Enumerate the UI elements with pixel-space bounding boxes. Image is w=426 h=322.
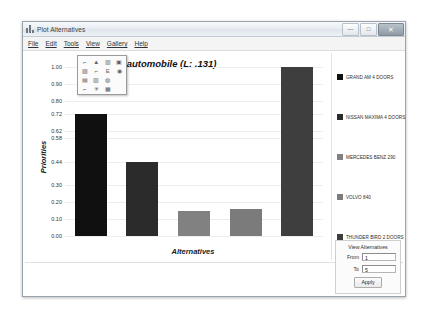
y-tick-label: 0.44 <box>51 159 62 165</box>
chart-bar[interactable] <box>230 209 262 236</box>
menu-item-help[interactable]: Help <box>134 40 147 47</box>
blank-cell-icon[interactable] <box>114 84 126 93</box>
bar-chart-icon[interactable]: ▥ <box>102 57 114 66</box>
gridline <box>65 236 323 237</box>
y-tick-label: 0.72 <box>51 111 62 117</box>
donut-chart-icon[interactable]: ◍ <box>102 75 114 84</box>
legend-swatch <box>337 194 343 200</box>
apply-button[interactable]: Apply <box>354 277 382 288</box>
chart-bar[interactable] <box>178 211 210 236</box>
y-tick-label: 0.30 <box>51 182 62 188</box>
legend-swatch <box>337 114 343 120</box>
gallery-palette-popup[interactable]: ⌐▲▥▣▨⌐Ε◉▤▥◍⌐✳▦ <box>77 55 127 95</box>
scatter-chart-icon[interactable]: ⌐ <box>79 84 91 93</box>
menu-item-file[interactable]: File <box>28 40 38 47</box>
bar-chart-icon <box>26 25 34 33</box>
chart-bar[interactable] <box>126 162 158 236</box>
legend-label: MERCEDES BENZ 290 <box>346 155 395 160</box>
plot-alternatives-window: Plot Alternatives — □ ✕ File Edit Tools … <box>22 21 406 297</box>
range-bar-icon[interactable]: ▥ <box>91 75 103 84</box>
legend-label: NISSAN MAXIMA 4 DOORS <box>346 115 405 120</box>
legend-item[interactable]: VOLVO 840 <box>333 177 403 217</box>
y-tick-label: 0.90 <box>51 81 62 87</box>
mixed-chart-icon[interactable]: ▦ <box>102 84 114 93</box>
stacked-bar-icon[interactable]: ▣ <box>114 57 126 66</box>
to-row: To 5 <box>340 265 396 273</box>
y-axis-title: Priorities <box>39 141 48 174</box>
close-button[interactable]: ✕ <box>378 23 404 36</box>
chart-legend: GRAND AM 4 DOORSNISSAN MAXIMA 4 DOORSMER… <box>333 53 403 260</box>
step-chart-icon[interactable]: ⌐ <box>91 66 103 75</box>
maximize-button[interactable]: □ <box>360 23 377 36</box>
menu-item-edit[interactable]: Edit <box>45 40 56 47</box>
window-titlebar[interactable]: Plot Alternatives — □ ✕ <box>23 22 405 37</box>
to-input[interactable]: 5 <box>362 265 396 273</box>
histogram-icon[interactable]: Ε <box>102 66 114 75</box>
blank-cell-icon[interactable] <box>114 75 126 84</box>
legend-label: VOLVO 840 <box>346 195 371 200</box>
legend-item[interactable]: GRAND AM 4 DOORS <box>333 57 403 97</box>
from-input[interactable]: 1 <box>362 253 396 261</box>
maximize-icon: □ <box>361 24 376 35</box>
y-tick-label: 0.00 <box>51 233 62 239</box>
chart-bar[interactable] <box>281 67 313 236</box>
column-chart-icon[interactable]: ▨ <box>79 66 91 75</box>
legend-item[interactable]: MERCEDES BENZ 290 <box>333 137 403 177</box>
x-axis-title: Alternatives <box>25 247 331 256</box>
from-row: From 1 <box>340 253 396 261</box>
menu-item-gallery[interactable]: Gallery <box>107 40 128 47</box>
window-controls: — □ ✕ <box>342 23 404 36</box>
y-tick-label: 0.80 <box>51 98 62 104</box>
window-title: Plot Alternatives <box>37 26 85 33</box>
from-label: From <box>345 254 359 260</box>
radar-chart-icon[interactable]: ✳ <box>91 84 103 93</box>
legend-swatch <box>337 74 343 80</box>
view-alternatives-panel: View Alternatives From 1 To 5 Apply <box>335 240 401 294</box>
to-label: To <box>345 266 359 272</box>
grouped-bar-icon[interactable]: ▤ <box>79 75 91 84</box>
view-alternatives-title: View Alternatives <box>340 244 396 250</box>
area-chart-icon[interactable]: ▲ <box>91 57 103 66</box>
y-tick-label: 0.58 <box>51 135 62 141</box>
client-area: cost of automobile (L: .131) Priorities … <box>23 51 405 296</box>
close-icon: ✕ <box>379 24 403 35</box>
chart-panel: cost of automobile (L: .131) Priorities … <box>25 53 332 260</box>
chart-bar[interactable] <box>75 114 107 236</box>
minimize-button[interactable]: — <box>342 23 359 36</box>
screen: Plot Alternatives — □ ✕ File Edit Tools … <box>0 0 426 322</box>
line-chart-icon[interactable]: ⌐ <box>79 57 91 66</box>
y-tick-label: 0.20 <box>51 199 62 205</box>
legend-item[interactable]: NISSAN MAXIMA 4 DOORS <box>333 97 403 137</box>
menu-item-tools[interactable]: Tools <box>64 40 79 47</box>
menu-item-view[interactable]: View <box>86 40 100 47</box>
y-tick-label: 0.10 <box>51 216 62 222</box>
y-tick-label: 0.62 <box>51 128 62 134</box>
legend-label: THUNDER BIRD 2 DOORS <box>346 235 404 240</box>
pie-chart-icon[interactable]: ◉ <box>114 66 126 75</box>
y-tick-label: 1.00 <box>51 64 62 70</box>
menubar: File Edit Tools View Gallery Help <box>23 37 405 51</box>
legend-swatch <box>337 154 343 160</box>
minimize-icon: — <box>343 24 358 35</box>
legend-label: GRAND AM 4 DOORS <box>346 75 393 80</box>
